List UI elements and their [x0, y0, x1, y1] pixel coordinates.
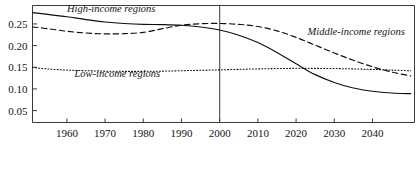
y-tick-label-0.10: 0.10	[8, 83, 28, 95]
series-label-low-income-regions: Low-income regions	[74, 68, 161, 79]
x-tick-label-1980: 1980	[132, 127, 155, 139]
y-tick-label-0.05: 0.05	[8, 105, 28, 117]
y-tick-label-0.25: 0.25	[8, 18, 28, 30]
y-tick-label-0.15: 0.15	[8, 61, 28, 73]
x-axis-tick-labels: 196019701980199020002010202020302040	[56, 127, 384, 139]
chart-container: 196019701980199020002010202020302040 0.0…	[0, 0, 419, 173]
y-tick-label-0.20: 0.20	[8, 40, 28, 52]
y-axis-tick-labels: 0.050.100.150.200.25	[8, 18, 28, 117]
x-tick-label-1970: 1970	[94, 127, 117, 139]
x-tick-label-2040: 2040	[361, 127, 384, 139]
x-tick-label-2010: 2010	[247, 127, 270, 139]
x-tick-label-1960: 1960	[56, 127, 79, 139]
x-tick-label-2020: 2020	[285, 127, 308, 139]
series-label-high-income-regions: High-income regions	[66, 3, 156, 14]
x-tick-label-2030: 2030	[323, 127, 346, 139]
series-label-middle-income-regions: Middle-income regions	[307, 26, 405, 37]
line-chart: 196019701980199020002010202020302040 0.0…	[0, 0, 419, 173]
x-tick-label-2000: 2000	[209, 127, 232, 139]
series-annotations: High-income regionsMiddle-income regions…	[66, 3, 405, 79]
x-tick-label-1990: 1990	[170, 127, 193, 139]
